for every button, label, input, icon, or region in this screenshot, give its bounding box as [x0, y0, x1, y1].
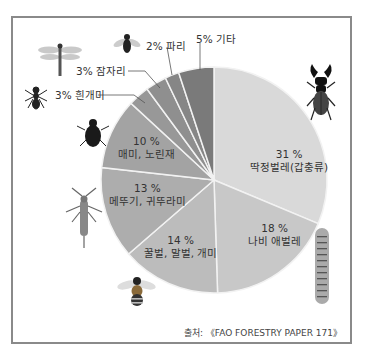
cicada-name: 매미, 노린재 — [118, 148, 175, 161]
bee-percent: 14 % — [144, 234, 217, 247]
label-fly: 2% 파리 — [146, 40, 186, 53]
grasshopper-percent: 13 % — [109, 182, 186, 195]
beetle-name: 딱정벌레(갑충류) — [250, 161, 328, 174]
label-dragonfly: 3% 잠자리 — [76, 65, 126, 78]
label-beetle: 31 % 딱정벌레(갑충류) — [250, 148, 328, 174]
source-caption: 출처: 《FAO FORESTRY PAPER 171》 — [184, 326, 342, 339]
label-other: 5% 기타 — [196, 33, 236, 46]
label-butterfly: 18 % 나비 애벌레 — [248, 222, 301, 248]
cicada-percent: 10 % — [118, 135, 175, 148]
label-cicada: 10 % 매미, 노린재 — [118, 135, 175, 161]
label-grasshopper: 13 % 메뚜기, 귀뚜라미 — [109, 182, 186, 208]
label-termite: 3% 흰개미 — [55, 89, 105, 102]
bee-name: 꿀벌, 말벌, 개미 — [144, 247, 217, 260]
beetle-percent: 31 % — [250, 148, 328, 161]
label-bee: 14 % 꿀벌, 말벌, 개미 — [144, 234, 217, 260]
butterfly-name: 나비 애벌레 — [248, 235, 301, 248]
grasshopper-name: 메뚜기, 귀뚜라미 — [109, 195, 186, 208]
butterfly-percent: 18 % — [248, 222, 301, 235]
pie-chart — [0, 0, 370, 361]
